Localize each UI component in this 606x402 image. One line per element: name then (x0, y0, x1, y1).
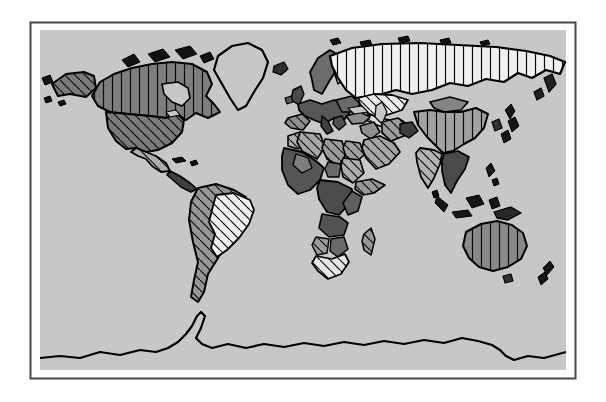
region-java (452, 210, 472, 218)
region-chad (325, 162, 341, 177)
region-tasmania (503, 274, 513, 283)
world-map (0, 0, 606, 402)
region-ireland (285, 96, 293, 104)
world-map-figure (0, 0, 606, 402)
